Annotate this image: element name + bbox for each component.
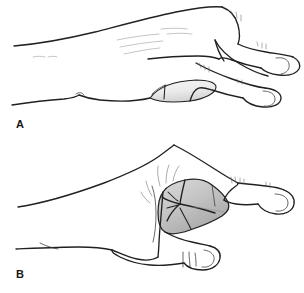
panel-b-label: B (16, 268, 24, 280)
illustration-canvas: A (0, 0, 304, 293)
paper-background (0, 0, 304, 293)
hand-illustration-figure: A (0, 0, 304, 293)
panel-a-label: A (16, 118, 24, 130)
